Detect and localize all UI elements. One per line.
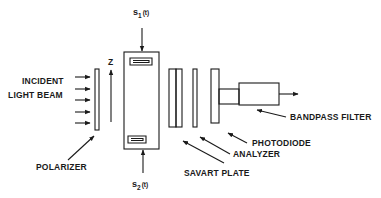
analyzer-label: ANALYZER [233, 149, 280, 159]
bandpass-filter [239, 83, 279, 105]
analyzer-pointer [200, 137, 230, 154]
incident-beam-arrows [75, 77, 90, 123]
analyzer [193, 69, 197, 127]
light-beam-label: LIGHT BEAM [8, 90, 63, 100]
photodiode-label: PHOTODIODE [252, 138, 311, 148]
polarizer [95, 69, 99, 130]
photodiode-pointer [228, 133, 247, 143]
signal-bottom-label: s2(t) [132, 179, 148, 191]
polarizer-label: POLARIZER [36, 162, 87, 172]
savart-plate-label: SAVART PLATE [184, 168, 250, 178]
polarizer-pointer [68, 136, 94, 160]
photodiode [211, 69, 219, 123]
photodiode-connector [219, 89, 239, 104]
optical-setup-diagram: INCIDENT LIGHT BEAM POLARIZER Z s1(t) s2… [0, 0, 381, 198]
z-axis-label: Z [108, 57, 113, 67]
savart-plate [169, 69, 182, 127]
savart-plate-pointer [183, 141, 224, 163]
bottom-electrode-icon [128, 136, 146, 143]
bandpass-filter-label: BANDPASS FILTER [290, 112, 372, 122]
top-electrode-icon [130, 58, 152, 65]
signal-top-label: s1(t) [133, 7, 149, 19]
modulator-block [124, 52, 159, 149]
incident-label: INCIDENT [22, 76, 64, 86]
bandpass-filter-pointer [257, 110, 286, 117]
